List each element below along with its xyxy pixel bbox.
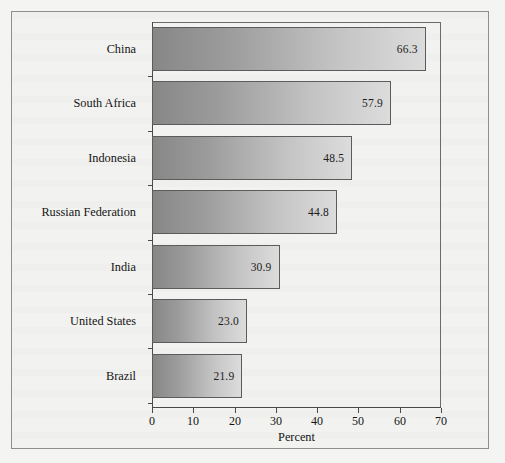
- x-axis-tick-label: 20: [229, 414, 241, 429]
- y-axis-tick: [148, 185, 153, 186]
- bar: 23.0: [152, 299, 247, 343]
- bar-value-label: 44.8: [308, 206, 329, 218]
- x-axis-tick-label: 10: [187, 414, 199, 429]
- bar: 48.5: [152, 136, 352, 180]
- category-label: India: [111, 245, 136, 289]
- category-label: United States: [70, 299, 136, 343]
- x-axis-tick: [152, 408, 153, 413]
- y-axis-tick: [148, 348, 153, 349]
- y-axis-tick: [148, 240, 153, 241]
- bar: 21.9: [152, 354, 242, 398]
- bar-value-label: 48.5: [323, 152, 344, 164]
- bar-value-label: 30.9: [251, 261, 272, 273]
- x-axis-tick: [193, 408, 194, 413]
- y-axis-tick: [148, 76, 153, 77]
- x-axis-tick: [276, 408, 277, 413]
- bar: 57.9: [152, 81, 391, 125]
- chart-figure: ChinaSouth AfricaIndonesiaRussian Federa…: [0, 0, 505, 463]
- x-axis-tick: [317, 408, 318, 413]
- x-axis-tick-label: 30: [270, 414, 282, 429]
- bar: 30.9: [152, 245, 280, 289]
- x-axis-tick: [400, 408, 401, 413]
- bar-value-label: 66.3: [397, 43, 418, 55]
- category-label: Brazil: [106, 354, 136, 398]
- x-axis-tick-label: 0: [149, 414, 155, 429]
- x-axis-tick: [358, 408, 359, 413]
- bar: 44.8: [152, 190, 337, 234]
- category-label: South Africa: [74, 81, 137, 125]
- bar-value-label: 57.9: [362, 97, 383, 109]
- plot-frame-top: [152, 22, 441, 23]
- x-axis-title: Percent: [152, 430, 441, 445]
- x-axis-ticks: 010203040506070: [152, 408, 441, 428]
- x-axis-tick-label: 60: [394, 414, 406, 429]
- plot-area: 66.357.948.544.830.923.021.9: [152, 22, 441, 408]
- x-axis-tick: [235, 408, 236, 413]
- x-axis-tick: [441, 408, 442, 413]
- y-axis-tick: [148, 294, 153, 295]
- x-axis-tick-label: 70: [435, 414, 447, 429]
- category-label: Indonesia: [88, 136, 136, 180]
- plot-frame-right: [440, 22, 441, 408]
- x-axis-tick-label: 50: [352, 414, 364, 429]
- category-label: China: [107, 27, 136, 71]
- category-label: Russian Federation: [41, 190, 136, 234]
- bar-value-label: 21.9: [213, 370, 234, 382]
- x-axis-tick-label: 40: [311, 414, 323, 429]
- category-axis-labels: ChinaSouth AfricaIndonesiaRussian Federa…: [0, 22, 144, 408]
- y-axis-tick: [148, 403, 153, 404]
- bar-value-label: 23.0: [218, 315, 239, 327]
- bar: 66.3: [152, 27, 426, 71]
- y-axis-tick: [148, 131, 153, 132]
